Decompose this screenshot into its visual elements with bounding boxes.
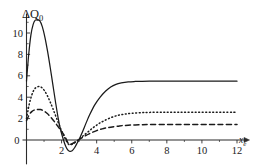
y-axis-label-subscript: 0 xyxy=(39,13,43,23)
y-axis-label-main: ΔQ xyxy=(22,7,39,21)
x-tick-label-12: 12 xyxy=(232,145,243,156)
chart-figure: 024681012246810 ΔQ0 xe xyxy=(0,0,256,167)
x-tick-label-2: 2 xyxy=(59,145,64,156)
x-tick-label-4: 4 xyxy=(94,145,100,156)
x-tick-label-8: 8 xyxy=(164,145,169,156)
y-tick-label-4: 4 xyxy=(18,92,24,103)
x-tick-label-0: 0 xyxy=(14,135,19,146)
y-tick-label-8: 8 xyxy=(18,49,23,60)
axes-group xyxy=(23,14,250,165)
x-axis-label-subscript: e xyxy=(243,140,246,148)
y-tick-label-6: 6 xyxy=(18,70,23,81)
y-tick-label-2: 2 xyxy=(18,113,23,124)
plot-area: 024681012246810 ΔQ0 xe xyxy=(0,0,256,167)
y-axis-label: ΔQ0 xyxy=(22,7,43,23)
x-tick-label-10: 10 xyxy=(197,145,208,156)
curves-group xyxy=(27,20,238,152)
ticks-group xyxy=(27,22,238,143)
y-tick-label-10: 10 xyxy=(13,28,24,39)
x-tick-label-6: 6 xyxy=(129,145,134,156)
curve-solid xyxy=(27,20,238,152)
